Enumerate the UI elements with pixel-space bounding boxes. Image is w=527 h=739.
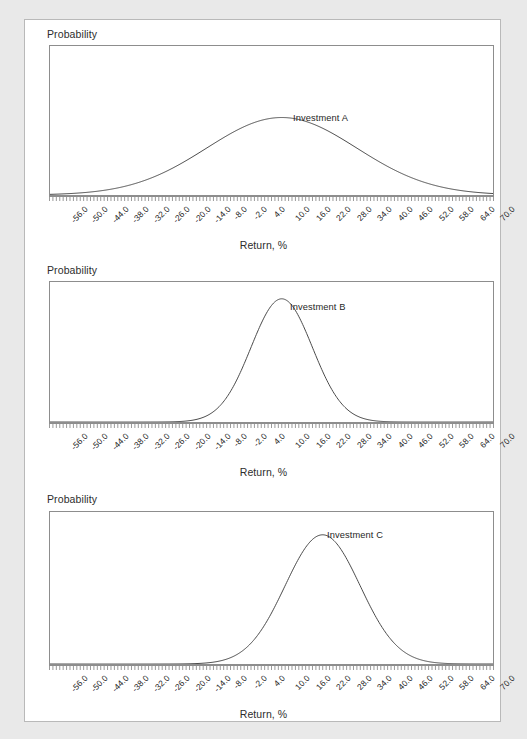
x-tick-label: -38.0 [130, 673, 151, 694]
figure-page: Probability -56.0-50.0-44.0-38.0-32.0-26… [0, 0, 527, 739]
plot-area-investment-c [49, 511, 494, 665]
x-tick-label: -8.0 [231, 673, 249, 691]
x-tick-label: -8.0 [231, 431, 249, 449]
x-tick-label: 58.0 [457, 204, 476, 223]
x-tick-label: -32.0 [151, 431, 172, 452]
x-tick-label: 34.0 [375, 204, 394, 223]
x-tick-label: -50.0 [89, 431, 110, 452]
x-tick-label: -38.0 [130, 431, 151, 452]
x-tick-label: -8.0 [231, 204, 249, 222]
series-annotation-investment-c: Investment C [327, 530, 383, 540]
x-axis-tick-labels: -56.0-50.0-44.0-38.0-32.0-26.0-20.0-14.0… [49, 673, 494, 713]
y-axis-title: Probability [47, 493, 97, 505]
x-axis-tick-marks [49, 665, 494, 672]
x-tick-label: -56.0 [69, 673, 90, 694]
x-tick-label: 52.0 [437, 673, 456, 692]
x-tick-label: 16.0 [314, 673, 333, 692]
x-tick-label: 28.0 [355, 673, 374, 692]
x-tick-label: 22.0 [334, 673, 353, 692]
x-tick-label: 28.0 [355, 431, 374, 450]
x-tick-label: -38.0 [130, 204, 151, 225]
x-tick-label: 40.0 [396, 673, 415, 692]
x-tick-label: 64.0 [478, 204, 497, 223]
x-tick-label: 10.0 [293, 204, 312, 223]
plot-area-investment-a [49, 45, 494, 196]
series-annotation-investment-b: Investment B [290, 302, 345, 312]
x-tick-label: 34.0 [375, 673, 394, 692]
x-tick-label: 70.0 [498, 204, 517, 223]
chart-panel-investment-b: Probability -56.0-50.0-44.0-38.0-32.0-26… [25, 261, 502, 488]
distribution-curve-investment-c [50, 512, 493, 664]
x-axis-tick-labels: -56.0-50.0-44.0-38.0-32.0-26.0-20.0-14.0… [49, 431, 494, 471]
distribution-curve-investment-a [50, 46, 493, 195]
plot-area-investment-b [49, 281, 494, 423]
x-tick-label: 52.0 [437, 431, 456, 450]
x-axis-tick-marks [49, 196, 494, 203]
x-tick-label: -26.0 [171, 204, 192, 225]
x-tick-label: -14.0 [212, 673, 233, 694]
x-tick-label: -14.0 [212, 204, 233, 225]
x-tick-label: -2.0 [252, 204, 270, 222]
x-tick-label: -26.0 [171, 673, 192, 694]
x-tick-label: 28.0 [355, 204, 374, 223]
x-axis-tick-labels: -56.0-50.0-44.0-38.0-32.0-26.0-20.0-14.0… [49, 204, 494, 244]
x-tick-label: 64.0 [478, 431, 497, 450]
figure-card: Probability -56.0-50.0-44.0-38.0-32.0-26… [24, 19, 501, 722]
x-tick-label: -20.0 [192, 431, 213, 452]
x-axis-tick-marks [49, 423, 494, 430]
x-tick-label: 4.0 [271, 673, 287, 689]
x-tick-label: 40.0 [396, 431, 415, 450]
x-tick-label: -44.0 [110, 431, 131, 452]
x-tick-label: -44.0 [110, 673, 131, 694]
x-tick-label: 4.0 [271, 204, 287, 220]
x-tick-label: 52.0 [437, 204, 456, 223]
x-tick-label: 46.0 [416, 204, 435, 223]
x-tick-label: -14.0 [212, 431, 233, 452]
y-axis-title: Probability [47, 264, 97, 276]
x-tick-label: -32.0 [151, 204, 172, 225]
x-tick-label: -26.0 [171, 431, 192, 452]
x-tick-label: 10.0 [293, 431, 312, 450]
x-tick-label: 34.0 [375, 431, 394, 450]
x-tick-label: 16.0 [314, 431, 333, 450]
series-annotation-investment-a: Investment A [293, 113, 348, 123]
x-tick-label: 70.0 [498, 673, 517, 692]
x-tick-label: -50.0 [89, 673, 110, 694]
x-tick-label: -56.0 [69, 204, 90, 225]
x-axis-title: Return, % [25, 239, 502, 251]
x-tick-label: 58.0 [457, 673, 476, 692]
x-tick-label: -44.0 [110, 204, 131, 225]
distribution-curve-investment-b [50, 282, 493, 422]
x-tick-label: 4.0 [271, 431, 287, 447]
x-axis-title: Return, % [25, 708, 502, 720]
x-tick-label: 10.0 [293, 673, 312, 692]
x-tick-label: 46.0 [416, 673, 435, 692]
x-tick-label: -56.0 [69, 431, 90, 452]
x-tick-label: 64.0 [478, 673, 497, 692]
x-tick-label: -50.0 [89, 204, 110, 225]
x-tick-label: 58.0 [457, 431, 476, 450]
x-tick-label: 46.0 [416, 431, 435, 450]
x-tick-label: -2.0 [252, 431, 270, 449]
x-tick-label: 22.0 [334, 204, 353, 223]
x-tick-label: -20.0 [192, 673, 213, 694]
x-tick-label: 70.0 [498, 431, 517, 450]
x-tick-label: 16.0 [314, 204, 333, 223]
x-axis-title: Return, % [25, 466, 502, 478]
chart-panel-investment-c: Probability -56.0-50.0-44.0-38.0-32.0-26… [25, 488, 502, 723]
x-tick-label: 40.0 [396, 204, 415, 223]
x-tick-label: 22.0 [334, 431, 353, 450]
chart-panel-investment-a: Probability -56.0-50.0-44.0-38.0-32.0-26… [25, 20, 502, 261]
x-tick-label: -20.0 [192, 204, 213, 225]
y-axis-title: Probability [47, 28, 97, 40]
x-tick-label: -32.0 [151, 673, 172, 694]
x-tick-label: -2.0 [252, 673, 270, 691]
